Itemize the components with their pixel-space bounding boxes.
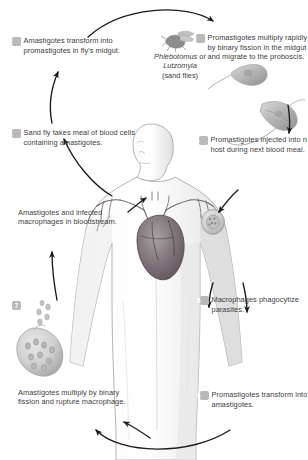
skin-lesion-macrophage-illustration	[202, 210, 225, 235]
arrow-step7-to-bloodstream	[52, 252, 57, 300]
step-1-callout: 1Sand fly takes meal of blood cells cont…	[12, 128, 152, 147]
vector-conjunction: or	[197, 52, 206, 61]
arrow-step4-to-host	[219, 190, 238, 212]
step-7-badge: 7	[12, 301, 21, 310]
bloodstream-label: Amastigotes and infected macrophages in …	[18, 208, 138, 227]
step-2-badge: 2	[12, 37, 21, 46]
step-6-text: Promastigotes transform into amastigotes…	[212, 390, 308, 409]
human-host-illustration	[70, 124, 242, 460]
step-7-text: Amastigotes multiply by binary fission a…	[18, 388, 126, 406]
step-5-text: Macrophages phagocytize parasites.	[212, 295, 299, 314]
bloodstream-label-text: Amastigotes and infected macrophages in …	[18, 208, 117, 226]
sand-fly-icon	[161, 31, 194, 52]
arrow-step2-to-step3	[88, 10, 213, 37]
vector-genus-1: Phlebotomus	[154, 52, 197, 61]
step-6-callout: 6Promastigotes transform into amastigote…	[200, 390, 307, 409]
leishmania-lifecycle-diagram: 1Sand fly takes meal of blood cells cont…	[0, 0, 307, 460]
step-2-text: Amastigotes transform into promastigotes…	[24, 36, 121, 55]
step-7-callout: Amastigotes multiply by binary fission a…	[18, 388, 128, 407]
step-1-badge: 1	[12, 129, 21, 138]
arrow-step1-to-step2	[50, 72, 58, 123]
step-4-text: Promastigotes injected into new host dur…	[211, 135, 308, 154]
step-4-callout: 4Promastigotes injected into new host du…	[199, 135, 307, 154]
step-3-text: Promastigotes multiply rapidly by binary…	[208, 33, 308, 61]
step-2-callout: 2Amastigotes transform into promastigote…	[12, 36, 150, 55]
step-4-badge: 4	[199, 136, 208, 145]
vector-genus-2: Lutzomyia	[163, 61, 197, 70]
step-5-callout: 5Macrophages phagocytize parasites.	[200, 295, 307, 314]
ruptured-macrophage-illustration	[17, 300, 63, 376]
step-3-badge: 3	[196, 34, 205, 43]
step-5-badge: 5	[200, 296, 209, 305]
vector-common-name: (sand flies)	[162, 71, 198, 80]
step-7-badge-wrap: 7	[12, 300, 21, 310]
step-1-text: Sand fly takes meal of blood cells conta…	[24, 128, 135, 147]
sand-fly-vector-label: Phlebotomus or Lutzomyia (sand flies)	[140, 52, 220, 80]
step-6-badge: 6	[200, 391, 209, 400]
arrow-blood-to-step1	[64, 139, 112, 196]
